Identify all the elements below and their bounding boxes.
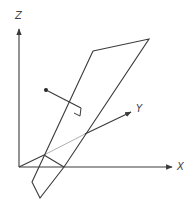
- plane-outline: [32, 39, 149, 198]
- z-axis-label: Z: [14, 10, 23, 21]
- normal-vector: [46, 90, 81, 108]
- y-axis-back: [85, 112, 131, 134]
- plane-trace-line: [44, 155, 64, 167]
- right-angle-marker: [74, 108, 81, 116]
- x-axis-label: X: [176, 161, 185, 172]
- diagram-canvas: Z X Y: [0, 0, 194, 204]
- y-axis-label: Y: [136, 103, 143, 114]
